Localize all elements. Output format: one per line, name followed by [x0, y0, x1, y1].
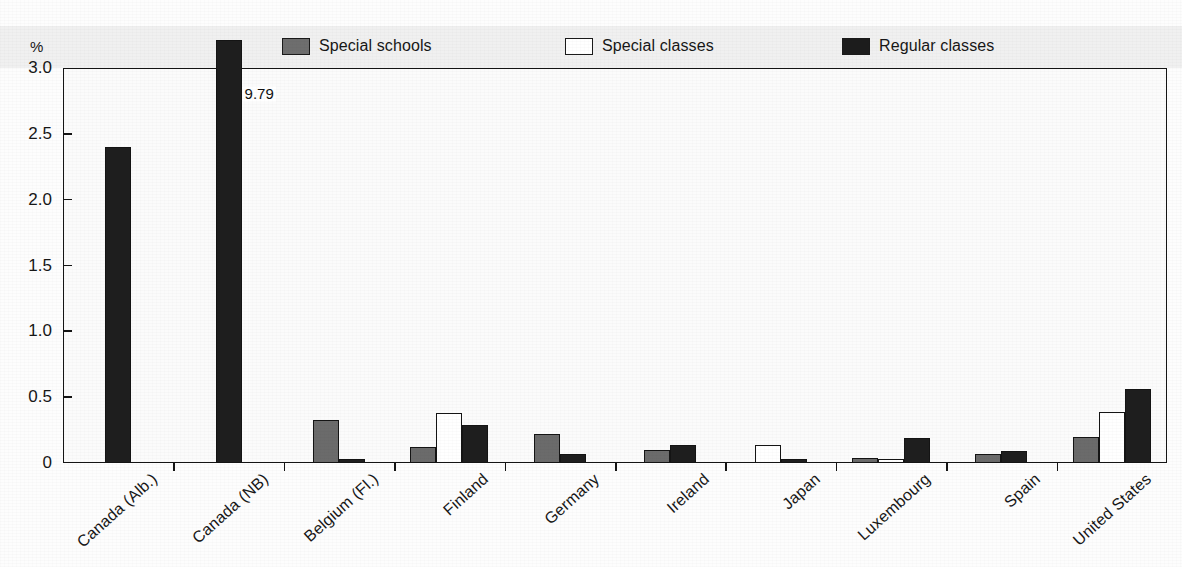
x-axis-label-japan: Japan [778, 470, 823, 513]
bar-spain-special-schools [975, 454, 1001, 463]
bar-finland-regular-classes [462, 425, 488, 463]
bars-layer: 9.79 [63, 40, 1167, 463]
bar-luxembourg-regular-classes [904, 438, 930, 463]
y-axis-tick-label: 1.0 [0, 321, 52, 341]
y-axis-tick-label: 2.0 [0, 190, 52, 210]
x-axis-label-canada-alb: Canada (Alb.) [74, 470, 161, 551]
bar-united-states-special-classes [1099, 412, 1125, 463]
bar-united-states-regular-classes [1125, 389, 1151, 463]
bar-canada-nb-regular-classes [216, 40, 242, 463]
bar-ireland-special-schools [644, 450, 670, 463]
bar-belgium-fl-special-schools [313, 420, 339, 463]
bar-luxembourg-special-schools [852, 458, 878, 463]
bar-finland-special-classes [436, 413, 462, 463]
bar-value-annotation: 9.79 [243, 86, 276, 102]
x-axis-label-canada-nb: Canada (NB) [188, 470, 271, 547]
x-axis-label-ireland: Ireland [664, 470, 713, 517]
bar-luxembourg-special-classes [878, 459, 904, 463]
y-axis-tick-label: 3.0 [0, 58, 52, 78]
y-axis-unit-label: % [30, 38, 43, 55]
bar-japan-regular-classes [781, 459, 807, 463]
bar-ireland-regular-classes [670, 445, 696, 463]
x-axis-label-spain: Spain [1001, 470, 1044, 511]
x-axis-label-belgium-fl: Belgium (Fl.) [301, 470, 382, 546]
bar-spain-regular-classes [1001, 451, 1027, 463]
y-axis-tick-label: 2.5 [0, 124, 52, 144]
y-axis-tick-label: 0.5 [0, 387, 52, 407]
bar-canada-alb-regular-classes [105, 147, 131, 463]
bar-germany-special-schools [534, 434, 560, 463]
bar-germany-regular-classes [560, 454, 586, 463]
x-axis-label-germany: Germany [541, 470, 603, 528]
x-axis-label-finland: Finland [440, 470, 492, 519]
y-axis-tick-label: 0 [0, 453, 52, 473]
y-axis-tick-label: 1.5 [0, 256, 52, 276]
x-axis-category-labels: Canada (Alb.)Canada (NB)Belgium (Fl.)Fin… [63, 470, 1167, 567]
bar-united-states-special-schools [1073, 437, 1099, 463]
bar-japan-special-classes [755, 445, 781, 463]
x-axis-label-united-states: United States [1069, 470, 1154, 549]
x-axis-label-luxembourg: Luxembourg [854, 470, 934, 544]
bar-belgium-fl-regular-classes [339, 459, 365, 463]
bar-finland-special-schools [410, 447, 436, 463]
